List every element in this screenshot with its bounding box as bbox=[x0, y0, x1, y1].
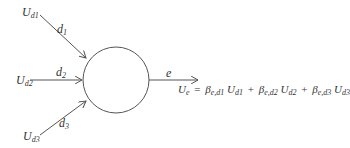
edge-label-d1: d1 bbox=[57, 23, 67, 37]
node-circle bbox=[83, 47, 149, 113]
source-label-ud1: Ud1 bbox=[22, 6, 39, 20]
edge-label-d3: d3 bbox=[59, 117, 69, 131]
source-label-ud3: Ud3 bbox=[23, 130, 40, 144]
edge-label-e: e bbox=[166, 67, 171, 79]
output-equation: Ue = βe,d1 Ud1 + βe,d2 Ud2 + βe,d3 Ud3 bbox=[178, 84, 350, 97]
source-label-ud2: Ud2 bbox=[16, 74, 33, 88]
edge-label-d2: d2 bbox=[56, 66, 66, 80]
